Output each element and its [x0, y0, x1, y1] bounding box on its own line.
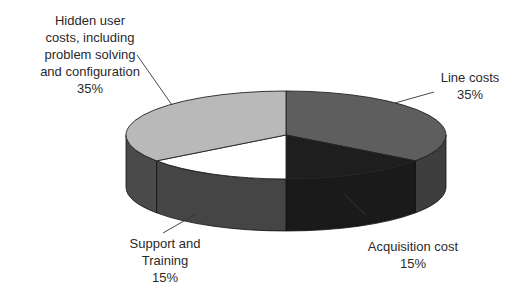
- label-hidden-pct: 35%: [15, 80, 165, 97]
- label-hidden-line1: Hidden user: [15, 12, 165, 29]
- label-hidden-line4: and configuration: [15, 63, 165, 80]
- label-acquisition-pct: 15%: [353, 255, 473, 272]
- label-line-costs-pct: 35%: [425, 86, 515, 103]
- label-hidden-line3: problem solving: [15, 46, 165, 63]
- label-line-costs-text: Line costs: [425, 69, 515, 86]
- label-acquisition-cost: Acquisition cost 15%: [353, 238, 473, 272]
- label-acquisition-text: Acquisition cost: [353, 238, 473, 255]
- pie-top-slices: [126, 91, 446, 179]
- label-hidden-user-costs: Hidden user costs, including problem sol…: [15, 12, 165, 97]
- label-support-line2: Training: [120, 252, 210, 269]
- label-support-training: Support and Training 15%: [120, 235, 210, 286]
- label-support-line1: Support and: [120, 235, 210, 252]
- label-support-pct: 15%: [120, 269, 210, 286]
- label-line-costs: Line costs 35%: [425, 69, 515, 103]
- label-hidden-line2: costs, including: [15, 29, 165, 46]
